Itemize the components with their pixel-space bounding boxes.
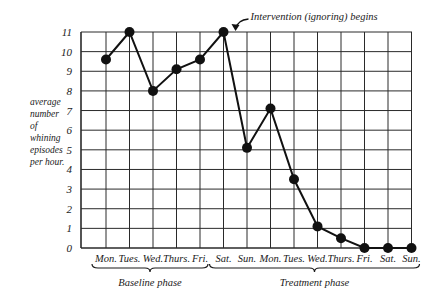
- x-axis-ticks: Mon.Tues.Wed.Thurs.Fri.Sat.Sun.Mon.Tues.…: [94, 253, 421, 264]
- svg-text:Wed.: Wed.: [143, 253, 163, 264]
- y-label-line: episodes: [30, 144, 74, 156]
- svg-text:1: 1: [67, 222, 73, 234]
- svg-text:Fri.: Fri.: [191, 253, 208, 264]
- svg-text:Sat.: Sat.: [380, 253, 396, 264]
- svg-text:3: 3: [66, 183, 73, 195]
- svg-text:Intervention (ignoring) begins: Intervention (ignoring) begins: [250, 11, 378, 23]
- svg-text:Thurs.: Thurs.: [163, 253, 190, 264]
- intervention-annotation: Intervention (ignoring) begins: [232, 11, 378, 31]
- svg-text:Sun.: Sun.: [238, 253, 256, 264]
- phase-brackets: Baseline phaseTreatment phase: [92, 264, 420, 288]
- y-label-line: number: [30, 108, 74, 120]
- svg-text:Baseline phase: Baseline phase: [118, 277, 182, 288]
- grid: [81, 32, 412, 248]
- y-label-line: per hour.: [30, 156, 74, 168]
- svg-text:Wed.: Wed.: [307, 253, 327, 264]
- svg-text:2: 2: [67, 203, 73, 215]
- svg-text:10: 10: [61, 46, 73, 58]
- svg-text:Sun.: Sun.: [402, 253, 420, 264]
- svg-text:Treatment phase: Treatment phase: [280, 277, 350, 288]
- y-label-line: average: [30, 96, 74, 108]
- y-label-line: of: [30, 120, 74, 132]
- svg-text:11: 11: [62, 26, 72, 38]
- svg-text:Thurs.: Thurs.: [327, 253, 354, 264]
- svg-text:Mon.: Mon.: [94, 253, 117, 264]
- y-axis-label: average number of whining episodes per h…: [30, 96, 74, 168]
- svg-text:Tues.: Tues.: [283, 253, 305, 264]
- svg-text:Sat.: Sat.: [215, 253, 231, 264]
- svg-text:Mon.: Mon.: [259, 253, 282, 264]
- svg-text:Tues.: Tues.: [119, 253, 141, 264]
- svg-text:0: 0: [67, 242, 73, 254]
- data-series: [101, 27, 417, 253]
- svg-text:Fri.: Fri.: [355, 253, 372, 264]
- svg-text:9: 9: [67, 65, 73, 77]
- y-label-line: whining: [30, 132, 74, 144]
